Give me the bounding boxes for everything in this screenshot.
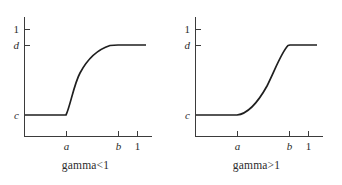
plot-area-gamma-less-than-one	[0, 0, 171, 185]
plot-area-gamma-greater-than-one	[171, 0, 342, 185]
chart-panel-gamma-greater-than-one: 1 d c a b 1 gamma>1	[171, 0, 342, 185]
y-axis-label-c: c	[6, 110, 19, 121]
y-axis-label-one: 1	[177, 24, 190, 35]
x-axis-label-b: b	[281, 141, 298, 152]
y-axis-label-d: d	[177, 40, 190, 51]
y-axis-label-one: 1	[6, 24, 19, 35]
y-axis-label-c: c	[177, 110, 190, 121]
y-axis-label-d: d	[6, 40, 19, 51]
caption-gamma-greater-than-one: gamma>1	[171, 159, 342, 171]
chart-panel-gamma-less-than-one: 1 d c a b 1 gamma<1	[0, 0, 171, 185]
x-axis-label-a: a	[58, 141, 75, 152]
x-axis-label-a: a	[229, 141, 246, 152]
x-axis-label-one: 1	[300, 141, 317, 152]
x-axis-label-one: 1	[129, 141, 146, 152]
transfer-curve-concave	[25, 45, 146, 115]
transfer-curve-convex	[196, 45, 317, 115]
x-axis-label-b: b	[110, 141, 127, 152]
caption-gamma-less-than-one: gamma<1	[0, 159, 171, 171]
gamma-correction-figure: 1 d c a b 1 gamma<1 1 d c	[0, 0, 342, 185]
